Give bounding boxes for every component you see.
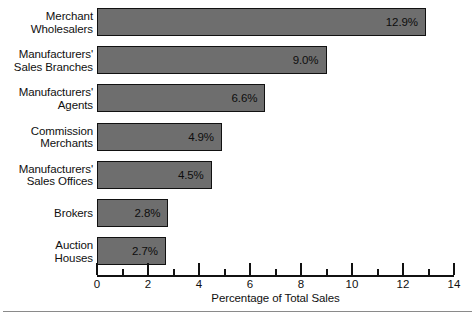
bar-row: Brokers2.8% <box>0 199 475 227</box>
x-axis-minor-tick <box>275 269 277 275</box>
x-axis-minor-tick <box>173 269 175 275</box>
footer-divider <box>3 311 472 312</box>
category-label: Manufacturers' Agents <box>19 86 93 111</box>
category-label: Auction Houses <box>55 239 93 264</box>
category-label: Brokers <box>54 207 93 220</box>
bar-value-label: 2.8% <box>135 207 168 219</box>
x-axis-major-tick <box>300 263 302 275</box>
x-axis-tick-label: 10 <box>346 278 359 290</box>
x-axis-tick-label: 6 <box>247 278 253 290</box>
x-axis-line <box>97 275 454 277</box>
x-axis-minor-tick <box>428 269 430 275</box>
x-axis-tick-label: 8 <box>298 278 304 290</box>
bar: 4.5% <box>97 161 212 189</box>
bar: 6.6% <box>97 84 265 112</box>
x-axis-tick-label: 4 <box>196 278 202 290</box>
x-axis-tick-label: 0 <box>94 278 100 290</box>
x-axis-major-tick <box>453 263 455 275</box>
x-axis-minor-tick <box>326 269 328 275</box>
x-axis-minor-tick <box>377 269 379 275</box>
x-axis-major-tick <box>249 263 251 275</box>
x-axis-tick-label: 2 <box>145 278 151 290</box>
horizontal-bar-chart: Merchant Wholesalers12.9%Manufacturers' … <box>0 0 475 323</box>
x-axis-minor-tick <box>122 269 124 275</box>
x-axis-tick-label: 12 <box>397 278 410 290</box>
x-axis-major-tick <box>147 263 149 275</box>
bar-row: Commission Merchants4.9% <box>0 123 475 151</box>
x-axis-minor-tick <box>224 269 226 275</box>
category-label: Merchant Wholesalers <box>31 10 93 35</box>
bar-value-label: 9.0% <box>293 54 326 66</box>
x-axis-tick-label: 14 <box>448 278 461 290</box>
bar-value-label: 6.6% <box>231 92 264 104</box>
category-label: Commission Merchants <box>31 124 93 149</box>
x-axis-major-tick <box>351 263 353 275</box>
x-axis-major-tick <box>96 263 98 275</box>
x-axis-title: Percentage of Total Sales <box>97 292 454 304</box>
bar: 2.8% <box>97 199 168 227</box>
x-axis-major-tick <box>402 263 404 275</box>
bar-row: Manufacturers' Agents6.6% <box>0 84 475 112</box>
bar-row: Auction Houses2.7% <box>0 237 475 265</box>
bar-value-label: 12.9% <box>386 16 425 28</box>
bar: 2.7% <box>97 237 166 265</box>
category-label: Manufacturers' Sales Offices <box>19 162 93 187</box>
bar-value-label: 4.5% <box>178 169 211 181</box>
bar: 9.0% <box>97 46 327 74</box>
bar-value-label: 2.7% <box>132 245 165 257</box>
bar-row: Manufacturers' Sales Branches9.0% <box>0 46 475 74</box>
bar: 4.9% <box>97 123 222 151</box>
bar-row: Merchant Wholesalers12.9% <box>0 8 475 36</box>
bar-value-label: 4.9% <box>188 131 221 143</box>
category-label: Manufacturers' Sales Branches <box>14 48 93 73</box>
bar-row: Manufacturers' Sales Offices4.5% <box>0 161 475 189</box>
x-axis-major-tick <box>198 263 200 275</box>
bar: 12.9% <box>97 8 426 36</box>
